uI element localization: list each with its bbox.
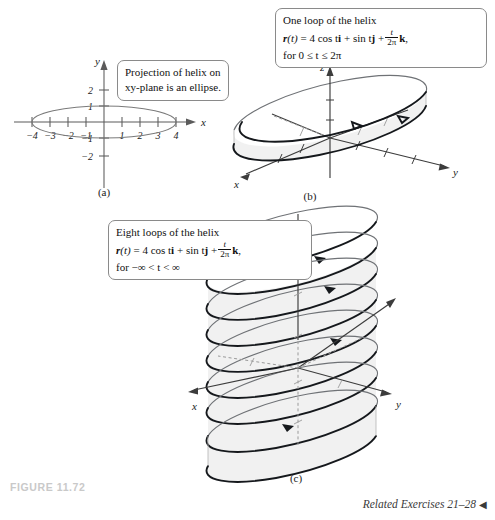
panel-a-xtick-label: −4 — [26, 130, 38, 141]
panel-b-y-axis-label: y — [452, 166, 458, 178]
panel-b-y-arrowhead — [439, 164, 450, 171]
figure-11-72: −4 −3 −2 −1 1 2 3 4 2 1 −1 −2 — [0, 0, 495, 520]
panel-a-xtick-label: 1 — [120, 130, 125, 141]
panel-c-eq-j: j — [205, 243, 209, 255]
panel-b-x-arrowhead — [240, 174, 250, 181]
panel-c-sublabel: (c) — [276, 472, 316, 484]
related-exercises: Related Exercises 21–28◀ — [363, 498, 487, 510]
panel-a-y-ticks: 2 1 −1 −2 — [81, 85, 109, 162]
panel-c-x-arrowhead — [188, 387, 198, 394]
panel-a-callout-line1: Projection of helix on — [125, 65, 221, 80]
panel-b-plot: x y z — [212, 58, 495, 188]
panel-c-eq-plus2: + — [211, 243, 217, 255]
panel-b-callout: One loop of the helix r(t) = 4 cos ti + … — [275, 8, 487, 68]
panel-a-callout-line2: xy-plane is an ellipse. — [125, 80, 221, 95]
panel-c-x-axis-label: x — [191, 400, 197, 412]
panel-c-y-arrowhead — [380, 390, 392, 397]
panel-c-eq-fraction: t2π — [218, 240, 231, 260]
panel-a-ytick-label: −2 — [81, 151, 93, 162]
panel-b-callout-equation: r(t) = 4 cos ti + sin tj +t2πk, — [283, 28, 479, 48]
panel-c-y-axis-back-arrowhead — [386, 298, 396, 308]
related-exercises-text: Related Exercises 21–28 — [363, 498, 476, 510]
figure-number-label: FIGURE 11.72 — [10, 481, 85, 493]
panel-c-eq-arg: (t) — [120, 243, 130, 255]
panel-b-direction-arrow-1 — [352, 122, 362, 129]
panel-b-sublabel: (b) — [290, 190, 330, 202]
panel-b-eq-plus2: + — [378, 31, 384, 43]
panel-c-eq-plus1: + sin t — [177, 243, 205, 255]
panel-c-eq-mid: = 4 cos t — [133, 243, 171, 255]
panel-b-eq-fraction: t2π — [385, 28, 398, 48]
panel-b-x-axis-label: x — [233, 178, 239, 190]
panel-a-xtick-label: 4 — [174, 130, 179, 141]
panel-b-eq-plus1: + sin t — [344, 31, 372, 43]
panel-c-callout: Eight loops of the helix r(t) = 4 cos ti… — [108, 220, 312, 280]
panel-a-x-axis-label: x — [200, 116, 206, 128]
panel-b-eq-arg: (t) — [287, 31, 297, 43]
panel-c-eq-tail: , — [238, 243, 241, 255]
panel-c-frac-denominator: 2π — [218, 250, 231, 259]
panel-b-eq-i: i — [338, 31, 341, 43]
panel-b-frac-denominator: 2π — [385, 38, 398, 47]
panel-b-eq-j: j — [372, 31, 376, 43]
panel-c-callout-domain: for −∞ < t < ∞ — [116, 260, 304, 275]
panel-a-sublabel: (a) — [84, 186, 124, 198]
panel-c-callout-equation: r(t) = 4 cos ti + sin tj +t2πk, — [116, 240, 304, 260]
panel-b-eq-mid: = 4 cos t — [300, 31, 338, 43]
panel-b-eq-tail: , — [405, 31, 408, 43]
panel-b: x y z — [212, 58, 495, 188]
panel-c-callout-title: Eight loops of the helix — [116, 225, 304, 240]
panel-b-callout-title: One loop of the helix — [283, 13, 479, 28]
panel-a-y-axis-label: y — [94, 55, 100, 67]
panel-a-ytick-label: 2 — [88, 85, 93, 96]
panel-a-x-ticks: −4 −3 −2 −1 1 2 3 4 — [26, 117, 178, 141]
panel-c-eq-i: i — [171, 243, 174, 255]
panel-c-y-axis-label: y — [395, 398, 401, 410]
panel-b-callout-domain: for 0 ≤ t ≤ 2π — [283, 48, 479, 63]
related-exercises-marker-icon: ◀ — [479, 499, 487, 510]
panel-b-y-axis — [330, 138, 444, 166]
